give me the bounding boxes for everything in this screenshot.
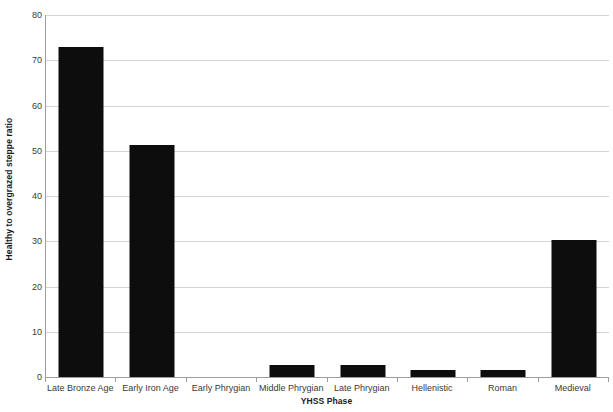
bar-slot: [539, 15, 609, 377]
bar[interactable]: [340, 365, 385, 377]
y-tick-label: 30: [18, 237, 42, 246]
bar[interactable]: [481, 370, 526, 377]
x-axis-title: YHSS Phase: [45, 396, 608, 406]
bar[interactable]: [551, 240, 596, 377]
x-axis-tick-labels: Late Bronze AgeEarly Iron AgeEarly Phryg…: [45, 382, 608, 396]
y-tick-label: 70: [18, 56, 42, 65]
x-tickmark: [608, 377, 609, 382]
y-axis-title: Healthy to overgrazed steppe ratio: [0, 0, 18, 377]
x-tick-label: Hellenistic: [397, 382, 467, 394]
x-tick-label: Medieval: [538, 382, 608, 394]
bar-slot: [328, 15, 398, 377]
y-tick-label: 20: [18, 282, 42, 291]
bar[interactable]: [411, 370, 456, 377]
bar-slot: [398, 15, 468, 377]
y-tick-label: 10: [18, 327, 42, 336]
bar-slot: [116, 15, 186, 377]
y-tick-label: 80: [18, 11, 42, 20]
y-tick-label: 0: [18, 373, 42, 382]
bar-slot: [468, 15, 538, 377]
bar[interactable]: [270, 365, 315, 377]
y-axis-tick-labels: 01020304050607080: [18, 15, 42, 377]
x-tick-label: Early Phrygian: [186, 382, 256, 394]
y-tick-label: 40: [18, 192, 42, 201]
x-tick-label: Roman: [467, 382, 537, 394]
y-axis-title-text: Healthy to overgrazed steppe ratio: [4, 117, 14, 260]
bar-chart: Healthy to overgrazed steppe ratio 01020…: [0, 0, 613, 412]
bar[interactable]: [59, 47, 104, 377]
bar-slot: [187, 15, 257, 377]
x-tick-label: Late Bronze Age: [45, 382, 115, 394]
bar-slot: [46, 15, 116, 377]
y-tick-label: 60: [18, 101, 42, 110]
x-tick-label: Early Iron Age: [115, 382, 185, 394]
y-tick-label: 50: [18, 146, 42, 155]
bars-layer: [46, 15, 609, 377]
bar[interactable]: [129, 145, 174, 377]
bar-slot: [257, 15, 327, 377]
x-tick-label: Middle Phrygian: [256, 382, 326, 394]
x-tick-label: Late Phrygian: [327, 382, 397, 394]
plot-area: [45, 15, 608, 377]
